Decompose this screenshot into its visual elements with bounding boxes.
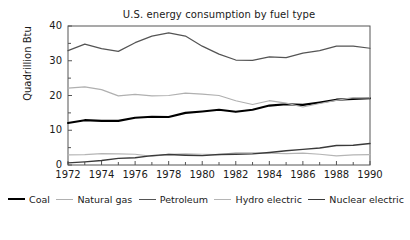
series-line-petroleum	[68, 33, 370, 60]
legend-line-swatch-icon	[214, 199, 231, 200]
chart-legend: CoalNatural gasPetroleumHydro electricNu…	[8, 189, 404, 209]
legend-line-swatch-icon	[139, 199, 156, 200]
legend-entry-hydro-electric[interactable]: Hydro electric	[214, 194, 301, 205]
legend-line-swatch-icon	[8, 198, 25, 200]
legend-label: Nuclear electric	[329, 194, 404, 205]
legend-line-swatch-icon	[56, 199, 73, 200]
legend-entry-nuclear-electric[interactable]: Nuclear electric	[308, 194, 404, 205]
legend-entry-coal[interactable]: Coal	[8, 194, 50, 205]
series-line-natural-gas	[68, 87, 370, 107]
legend-entry-petroleum[interactable]: Petroleum	[139, 194, 208, 205]
energy-consumption-figure: U.S. energy consumption by fuel type Qua…	[0, 0, 410, 240]
legend-line-swatch-icon	[308, 199, 325, 200]
legend-entry-natural-gas[interactable]: Natural gas	[56, 194, 132, 205]
legend-label: Coal	[29, 194, 50, 205]
legend-label: Petroleum	[160, 194, 208, 205]
legend-label: Hydro electric	[235, 194, 301, 205]
legend-label: Natural gas	[77, 194, 132, 205]
